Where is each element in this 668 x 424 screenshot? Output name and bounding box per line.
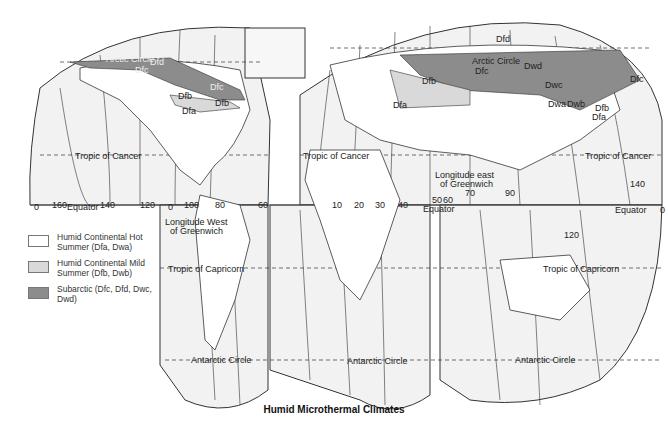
svg-text:20: 20 [354, 200, 364, 210]
svg-text:Arctic Circle: Arctic Circle [106, 54, 154, 64]
svg-text:90: 90 [505, 188, 515, 198]
svg-text:30: 30 [375, 200, 385, 210]
svg-text:Dfb: Dfb [215, 98, 229, 108]
svg-text:Dfd: Dfd [150, 57, 164, 67]
svg-text:of Greenwich: of Greenwich [440, 179, 493, 189]
svg-text:Arctic Circle: Arctic Circle [472, 56, 520, 66]
svg-text:Dfb: Dfb [422, 76, 436, 86]
svg-text:120: 120 [564, 230, 579, 240]
svg-text:of Greenwich: of Greenwich [170, 226, 223, 236]
world-climate-map: Tropic of Cancer Tropic of Cancer Tropic… [0, 0, 668, 424]
svg-text:Dfa: Dfa [393, 100, 407, 110]
svg-text:70: 70 [465, 188, 475, 198]
svg-text:60: 60 [258, 200, 268, 210]
svg-text:0: 0 [34, 202, 39, 212]
svg-text:Dfb: Dfb [178, 91, 192, 101]
svg-text:50: 50 [432, 195, 442, 205]
svg-text:Dfc: Dfc [630, 74, 644, 84]
svg-text:60: 60 [443, 195, 453, 205]
svg-text:Dfc: Dfc [135, 65, 149, 75]
svg-text:Tropic of Cancer: Tropic of Cancer [303, 151, 369, 161]
svg-text:Dfa: Dfa [182, 106, 196, 116]
swatch-hot-summer [28, 235, 49, 247]
legend-item-subarctic: Subarctic (Dfc, Dfd, Dwc, Dwd) [28, 284, 168, 304]
svg-text:Antarctic Circle: Antarctic Circle [191, 355, 252, 365]
svg-text:Tropic of Cancer: Tropic of Cancer [585, 151, 651, 161]
svg-text:Dwc: Dwc [545, 80, 563, 90]
swatch-mild-summer [28, 261, 49, 273]
svg-text:140: 140 [100, 200, 115, 210]
svg-text:0: 0 [660, 205, 665, 215]
svg-text:140: 140 [630, 179, 645, 189]
svg-text:40: 40 [398, 200, 408, 210]
svg-text:Equator: Equator [67, 202, 99, 212]
legend-item-mild-summer: Humid Continental Mild Summer (Dfb, Dwb) [28, 258, 168, 278]
svg-text:Dwb: Dwb [567, 99, 585, 109]
svg-text:Dfc: Dfc [475, 66, 489, 76]
svg-text:Dfa: Dfa [592, 112, 606, 122]
svg-text:Tropic of Cancer: Tropic of Cancer [75, 151, 141, 161]
svg-text:120: 120 [140, 200, 155, 210]
svg-text:Antarctic Circle: Antarctic Circle [347, 356, 408, 366]
svg-text:160: 160 [52, 200, 67, 210]
svg-text:Dfd: Dfd [496, 34, 510, 44]
map-title: Humid Microthermal Climates [0, 404, 668, 415]
svg-text:Tropic of Capricorn: Tropic of Capricorn [168, 264, 244, 274]
svg-text:10: 10 [332, 200, 342, 210]
svg-text:80: 80 [215, 200, 225, 210]
svg-text:0: 0 [168, 202, 173, 212]
svg-text:Dfc: Dfc [210, 82, 224, 92]
legend-item-hot-summer: Humid Continental Hot Summer (Dfa, Dwa) [28, 232, 168, 252]
map-legend: Humid Continental Hot Summer (Dfa, Dwa) … [28, 232, 168, 310]
svg-text:Tropic of Capricorn: Tropic of Capricorn [543, 264, 619, 274]
svg-text:Antarctic Circle: Antarctic Circle [515, 355, 576, 365]
svg-text:100: 100 [184, 200, 199, 210]
svg-text:Dwa: Dwa [548, 99, 566, 109]
svg-text:Equator: Equator [615, 205, 647, 215]
svg-text:Equator: Equator [423, 204, 455, 214]
svg-text:Dwd: Dwd [524, 61, 542, 71]
swatch-subarctic [28, 287, 49, 299]
